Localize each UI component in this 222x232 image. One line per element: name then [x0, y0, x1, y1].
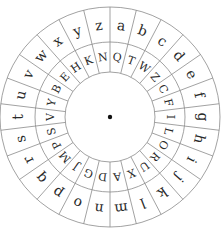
inner-ring-letter-D: D [97, 170, 108, 184]
outer-ring-letter-q: q [32, 170, 50, 187]
inner-ring-letter-X: X [125, 166, 137, 181]
inner-ring-letter-J: J [70, 160, 82, 174]
outer-ring-letter-e: e [183, 67, 201, 82]
inner-ring-letter-W: W [136, 59, 153, 77]
outer-ring-letter-k: k [154, 184, 170, 202]
outer-ring-letter-b: b [136, 21, 150, 39]
outer-ring-letter-i: i [184, 154, 200, 166]
inner-ring-letter-L: L [161, 126, 176, 137]
inner-ring-letter-I: I [164, 115, 177, 119]
outer-ring-letter-p: p [49, 184, 65, 202]
outer-ring-letter-f: f [191, 90, 208, 101]
inner-ring-letter-Q: Q [112, 50, 123, 64]
cipher-wheel[interactable]: abcdefghijklmnopqrstuvwxyz QTWZCFILORUXA… [0, 0, 222, 232]
inner-ring-letter-S: S [45, 126, 59, 136]
outer-ring-letter-m: m [114, 200, 129, 217]
inner-ring-letter-V: V [44, 112, 57, 122]
outer-ring-letter-v: v [19, 67, 37, 82]
outer-ring-letter-j: j [172, 170, 188, 185]
inner-ring-letter-T: T [126, 54, 138, 69]
inner-ring-letter-M: M [56, 148, 73, 165]
outer-ring-letter-o: o [70, 195, 84, 213]
outer-ring-letter-d: d [170, 47, 188, 64]
outer-ring-letter-y: y [70, 22, 84, 40]
outer-ring-letter-h: h [191, 133, 209, 146]
outer-ring-letter-z: z [94, 17, 103, 34]
inner-ring-letter-Y: Y [44, 97, 59, 109]
inner-ring-letter-N: N [97, 50, 108, 64]
outer-ring-letter-a: a [116, 17, 126, 34]
outer-ring-letter-s: s [12, 134, 29, 145]
inner-ring-letter-P: P [49, 138, 64, 151]
outer-ring-letter-x: x [50, 32, 66, 50]
outer-ring-letter-r: r [19, 153, 36, 167]
outer-ring-letter-l: l [137, 195, 147, 212]
outer-ring-letter-t: t [10, 114, 26, 120]
outer-ring-letter-n: n [93, 200, 104, 217]
inner-ring-letter-G: G [82, 165, 95, 180]
outer-ring-letter-g: g [195, 113, 211, 122]
inner-ring-letter-K: K [83, 53, 96, 68]
inner-ring-letter-A: A [111, 170, 122, 184]
outer-ring-letter-c: c [155, 32, 171, 50]
outer-ring-letter-u: u [11, 89, 29, 102]
inner-ring-letter-F: F [161, 97, 176, 108]
outer-ring-letter-w: w [31, 46, 51, 66]
center-pivot-dot [108, 115, 112, 119]
